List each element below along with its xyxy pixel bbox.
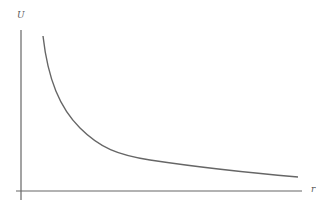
x-axis-label: r	[311, 184, 316, 194]
potential-energy-chart: U r	[0, 0, 318, 209]
y-axis-label: U	[17, 10, 25, 20]
u-vs-r-curve	[43, 36, 298, 177]
